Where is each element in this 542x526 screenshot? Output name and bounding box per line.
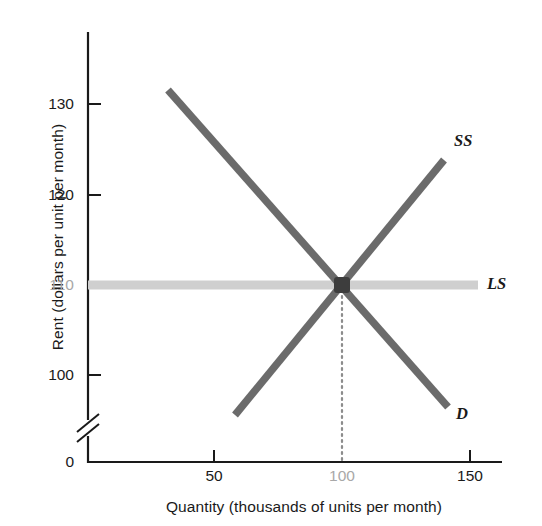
y-tick-label-100: 100 xyxy=(28,366,74,384)
y-tick-label-130: 130 xyxy=(28,95,74,113)
chart-canvas xyxy=(0,0,542,526)
y-tick-label-110: 110 xyxy=(28,276,74,294)
curve-label-d: D xyxy=(456,404,468,424)
y-tick-label-120: 120 xyxy=(28,186,74,204)
curve-label-ls: LS xyxy=(487,274,506,294)
y-axis-origin-label: 0 xyxy=(28,453,74,471)
x-tick-label-50: 50 xyxy=(188,467,240,485)
curve-d-line xyxy=(168,90,448,407)
x-tick-label-100: 100 xyxy=(316,467,368,485)
equilibrium-point-marker xyxy=(334,277,350,293)
economics-supply-demand-figure: Rent (dollars per unit per month) Quanti… xyxy=(0,0,542,526)
y-axis-title: Rent (dollars per unit per month) xyxy=(49,87,67,387)
curve-label-ss: SS xyxy=(454,131,472,151)
x-axis-title: Quantity (thousands of units per month) xyxy=(104,498,504,516)
x-tick-label-150: 150 xyxy=(444,467,496,485)
